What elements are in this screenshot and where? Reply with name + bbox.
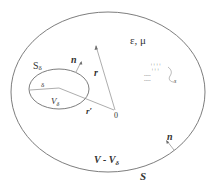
origin-label: 0 xyxy=(114,111,118,120)
outer-surface-boundary xyxy=(11,12,205,172)
inner-normal-label: n xyxy=(71,54,77,65)
position-vector-arrowhead-icon xyxy=(95,45,98,50)
outer-normal-label: n xyxy=(167,131,173,142)
source-vector-label: r′ xyxy=(86,106,93,116)
region-label: V - Vδ xyxy=(94,154,120,167)
negative-charges-row2: ---- xyxy=(144,78,151,83)
inner-surface-label: Sδ xyxy=(33,60,43,72)
position-vector-label: r xyxy=(94,67,98,78)
inner-normal-arrowhead-icon xyxy=(79,61,82,65)
medium-label: ε, μ xyxy=(130,34,146,46)
inner-volume-label: Vδ xyxy=(51,96,60,107)
path-label: s xyxy=(174,78,177,84)
diagram-canvas: ε, μ ++++ +++ ---- ---- s Sδ n δ Vδ r r′… xyxy=(0,0,214,189)
delta-radius-line xyxy=(30,88,59,90)
positive-charges-row2: +++ xyxy=(151,67,160,72)
inner-radius-label: δ xyxy=(41,81,45,89)
outer-surface-label: S xyxy=(140,170,146,182)
position-vector-arrow xyxy=(96,46,115,110)
